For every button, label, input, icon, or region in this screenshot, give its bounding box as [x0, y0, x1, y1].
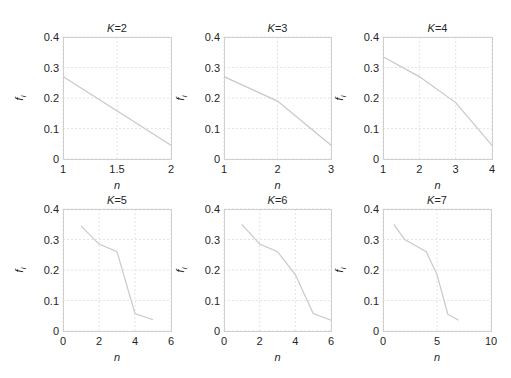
x-axis-label: n — [114, 179, 120, 191]
x-tick-label: 1 — [60, 163, 66, 175]
subplot-title: K=4 — [428, 22, 448, 34]
x-tick-label: 0 — [60, 335, 66, 347]
y-tick-label: 0.2 — [364, 264, 379, 276]
y-tick-label: 0.2 — [205, 264, 220, 276]
x-axis-label: n — [434, 351, 440, 363]
y-axis-label: fi — [174, 95, 189, 100]
x-tick-label: 10 — [485, 335, 497, 347]
x-tick-label: 4 — [292, 335, 298, 347]
y-tick-label: 0 — [214, 153, 220, 165]
x-axis-label: n — [114, 351, 120, 363]
y-tick-label: 0 — [373, 153, 379, 165]
y-tick-label: 0.1 — [364, 295, 379, 307]
y-axis-label: fi — [174, 267, 189, 272]
y-tick-label: 0.2 — [44, 92, 59, 104]
subplot-title: K=3 — [268, 22, 288, 34]
subplot-title: K=7 — [427, 194, 447, 206]
subplot-5: 024600.10.20.30.4K=6nfi — [174, 194, 334, 363]
x-tick-label: 2 — [168, 163, 174, 175]
y-axis-label: fi — [13, 267, 28, 272]
x-tick-label: 0 — [221, 335, 227, 347]
y-tick-label: 0.2 — [364, 92, 379, 104]
x-tick-label: 4 — [489, 163, 495, 175]
x-tick-label: 6 — [328, 335, 334, 347]
y-tick-label: 0.1 — [44, 295, 59, 307]
y-axis-label: fi — [13, 95, 28, 100]
y-tick-label: 0.4 — [364, 31, 379, 43]
x-tick-label: 5 — [434, 335, 440, 347]
y-axis-label: fi — [333, 95, 348, 100]
subplot-title: K=5 — [107, 194, 127, 206]
x-tick-label: 4 — [132, 335, 138, 347]
y-tick-label: 0.3 — [205, 62, 220, 74]
y-tick-label: 0.1 — [205, 123, 220, 135]
y-tick-label: 0.4 — [205, 31, 220, 43]
subplot-2: 12300.10.20.30.4K=3nfi — [174, 22, 334, 191]
x-tick-label: 0 — [380, 335, 386, 347]
subplot-6: 051000.10.20.30.4K=7nfi — [333, 194, 497, 363]
y-tick-label: 0.2 — [205, 92, 220, 104]
y-tick-label: 0.3 — [364, 62, 379, 74]
x-tick-label: 1 — [380, 163, 386, 175]
y-tick-label: 0.1 — [205, 295, 220, 307]
x-tick-label: 3 — [328, 163, 334, 175]
x-tick-label: 2 — [416, 163, 422, 175]
y-tick-label: 0 — [53, 325, 59, 337]
y-tick-label: 0.3 — [44, 62, 59, 74]
subplot-4: 024600.10.20.30.4K=5nfi — [13, 194, 174, 363]
y-tick-label: 0.4 — [205, 203, 220, 215]
x-axis-label: n — [274, 179, 280, 191]
y-tick-label: 0.4 — [44, 31, 59, 43]
y-tick-label: 0.3 — [364, 234, 379, 246]
y-tick-label: 0 — [373, 325, 379, 337]
y-tick-label: 0.1 — [364, 123, 379, 135]
subplot-1: 11.5200.10.20.30.4K=2nfi — [13, 22, 174, 191]
y-tick-label: 0.4 — [44, 203, 59, 215]
x-tick-label: 6 — [168, 335, 174, 347]
x-tick-label: 2 — [96, 335, 102, 347]
x-axis-label: n — [434, 179, 440, 191]
y-tick-label: 0 — [53, 153, 59, 165]
y-tick-label: 0.2 — [44, 264, 59, 276]
x-tick-label: 2 — [257, 335, 263, 347]
y-tick-label: 0.1 — [44, 123, 59, 135]
x-tick-label: 1 — [221, 163, 227, 175]
x-tick-label: 1.5 — [109, 163, 124, 175]
y-axis-label: fi — [333, 267, 348, 272]
x-tick-label: 3 — [453, 163, 459, 175]
x-axis-label: n — [274, 351, 280, 363]
subplot-grid: 11.5200.10.20.30.4K=2nfi12300.10.20.30.4… — [0, 0, 511, 378]
y-tick-label: 0.3 — [44, 234, 59, 246]
subplot-title: K=6 — [268, 194, 288, 206]
x-tick-label: 2 — [274, 163, 280, 175]
subplot-3: 123400.10.20.30.4K=4nfi — [333, 22, 495, 191]
y-tick-label: 0.4 — [364, 203, 379, 215]
y-tick-label: 0.3 — [205, 234, 220, 246]
subplot-title: K=2 — [107, 22, 127, 34]
y-tick-label: 0 — [214, 325, 220, 337]
